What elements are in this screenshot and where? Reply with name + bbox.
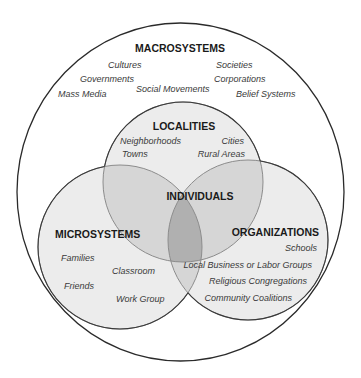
micro-item-friends: Friends xyxy=(64,281,95,291)
individuals-heading: INDIVIDUALS xyxy=(166,190,233,202)
ecological-levels-diagram: MACROSYSTEMS Cultures Governments Mass M… xyxy=(0,0,361,378)
macro-item-corporations: Corporations xyxy=(214,74,266,84)
loc-item-rural-areas: Rural Areas xyxy=(198,149,246,159)
macro-item-mass-media: Mass Media xyxy=(58,89,107,99)
macro-item-governments: Governments xyxy=(80,74,135,84)
macro-item-societies: Societies xyxy=(216,60,253,70)
microsystems-heading: MICROSYSTEMS xyxy=(55,228,140,240)
macrosystems-heading: MACROSYSTEMS xyxy=(135,42,225,54)
micro-item-work-group: Work Group xyxy=(116,294,165,304)
org-item-religious-congregations: Religious Congregations xyxy=(209,276,308,286)
loc-item-cities: Cities xyxy=(221,136,244,146)
micro-item-families: Families xyxy=(61,253,95,263)
localities-heading: LOCALITIES xyxy=(153,120,215,132)
micro-item-classroom: Classroom xyxy=(112,266,156,276)
organizations-heading: ORGANIZATIONS xyxy=(232,226,319,238)
macro-item-social-movements: Social Movements xyxy=(136,84,210,94)
org-item-local-business: Local Business or Labor Groups xyxy=(183,260,312,270)
macro-item-belief-systems: Belief Systems xyxy=(236,89,296,99)
loc-item-towns: Towns xyxy=(122,149,148,159)
org-item-schools: Schools xyxy=(285,243,318,253)
macro-item-cultures: Cultures xyxy=(108,60,142,70)
loc-item-neighborhoods: Neighborhoods xyxy=(120,136,182,146)
org-item-community-coalitions: Community Coalitions xyxy=(204,293,292,303)
